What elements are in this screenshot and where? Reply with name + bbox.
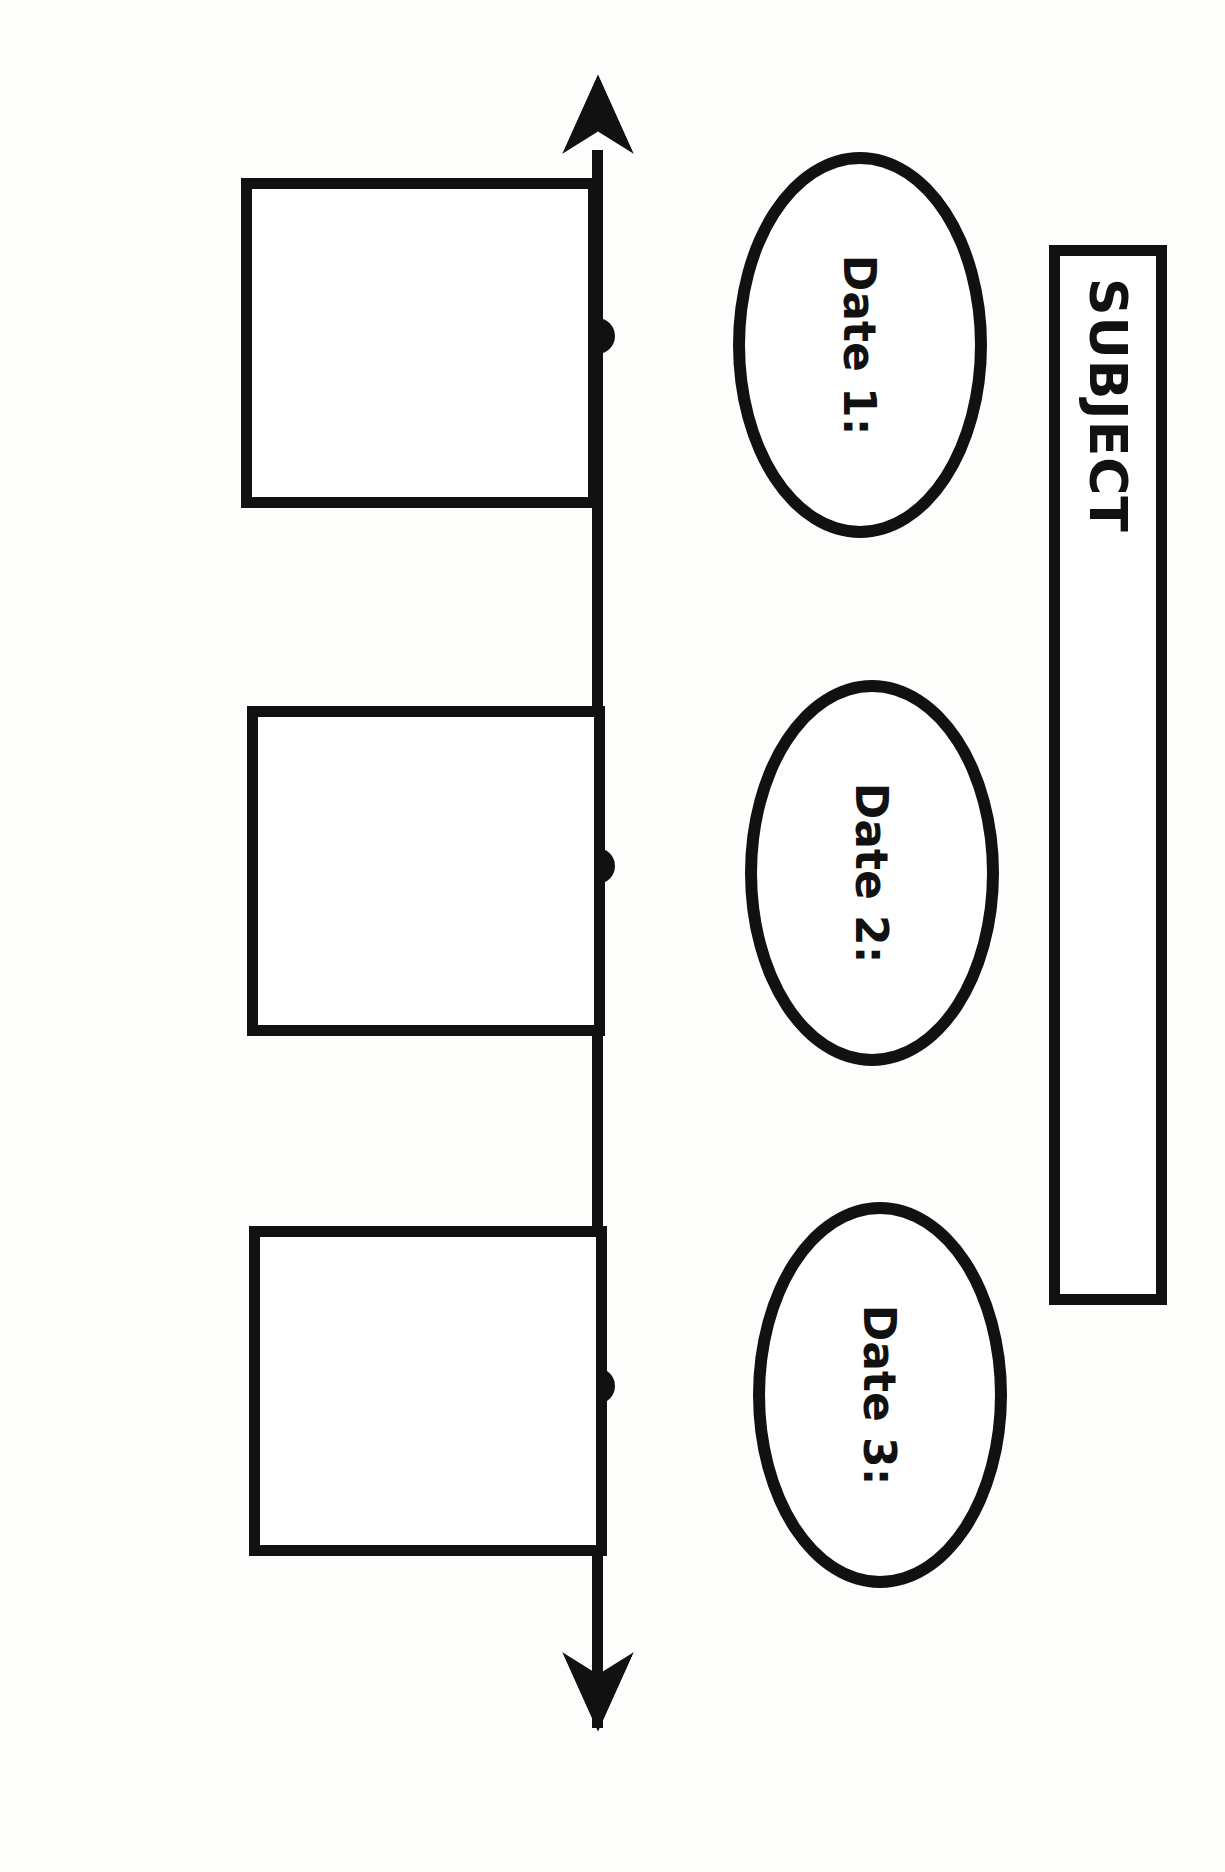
date-oval-2[interactable]: Date 2: bbox=[745, 680, 999, 1066]
date-oval-1-label: Date 1: bbox=[835, 255, 886, 436]
subject-label: SUBJECT bbox=[1078, 278, 1138, 533]
date-oval-3-label: Date 3: bbox=[855, 1305, 906, 1486]
worksheet-page: SUBJECT Date 1: Date 2: Date 3: bbox=[0, 0, 1225, 1872]
event-box-2[interactable] bbox=[247, 706, 605, 1036]
subject-title-box[interactable]: SUBJECT bbox=[1049, 245, 1167, 1305]
event-box-1[interactable] bbox=[241, 178, 599, 508]
date-oval-2-label: Date 2: bbox=[847, 783, 898, 964]
date-oval-1[interactable]: Date 1: bbox=[733, 152, 987, 538]
arrow-left-icon bbox=[562, 74, 634, 154]
date-oval-3[interactable]: Date 3: bbox=[753, 1202, 1007, 1588]
event-box-3[interactable] bbox=[249, 1226, 607, 1556]
